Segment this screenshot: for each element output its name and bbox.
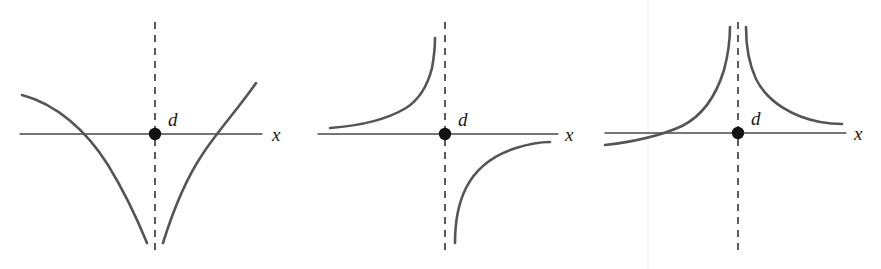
point-d-label: d: [168, 109, 178, 130]
point-d-dot: [732, 127, 744, 139]
panel-3-canvas: d x: [588, 0, 881, 269]
x-axis-label: x: [271, 124, 281, 145]
asymptote-panel-2: d x: [294, 0, 588, 269]
point-d-label: d: [751, 108, 761, 129]
figure-root: d x d x: [0, 0, 881, 269]
left-branch-curve: [22, 95, 147, 243]
point-d-dot: [149, 128, 161, 140]
right-branch-curve: [455, 142, 550, 243]
asymptote-panel-3: d x: [588, 0, 881, 269]
panel-1-canvas: d x: [0, 0, 294, 269]
x-axis-label: x: [853, 123, 863, 144]
asymptote-panel-1: d x: [0, 0, 294, 269]
point-d-dot: [439, 128, 451, 140]
panel-2-canvas: d x: [294, 0, 588, 269]
point-d-label: d: [458, 109, 468, 130]
x-axis-label: x: [564, 124, 574, 145]
left-branch-curve: [330, 38, 435, 128]
right-branch-curve: [163, 83, 256, 243]
left-branch-curve: [605, 27, 730, 145]
